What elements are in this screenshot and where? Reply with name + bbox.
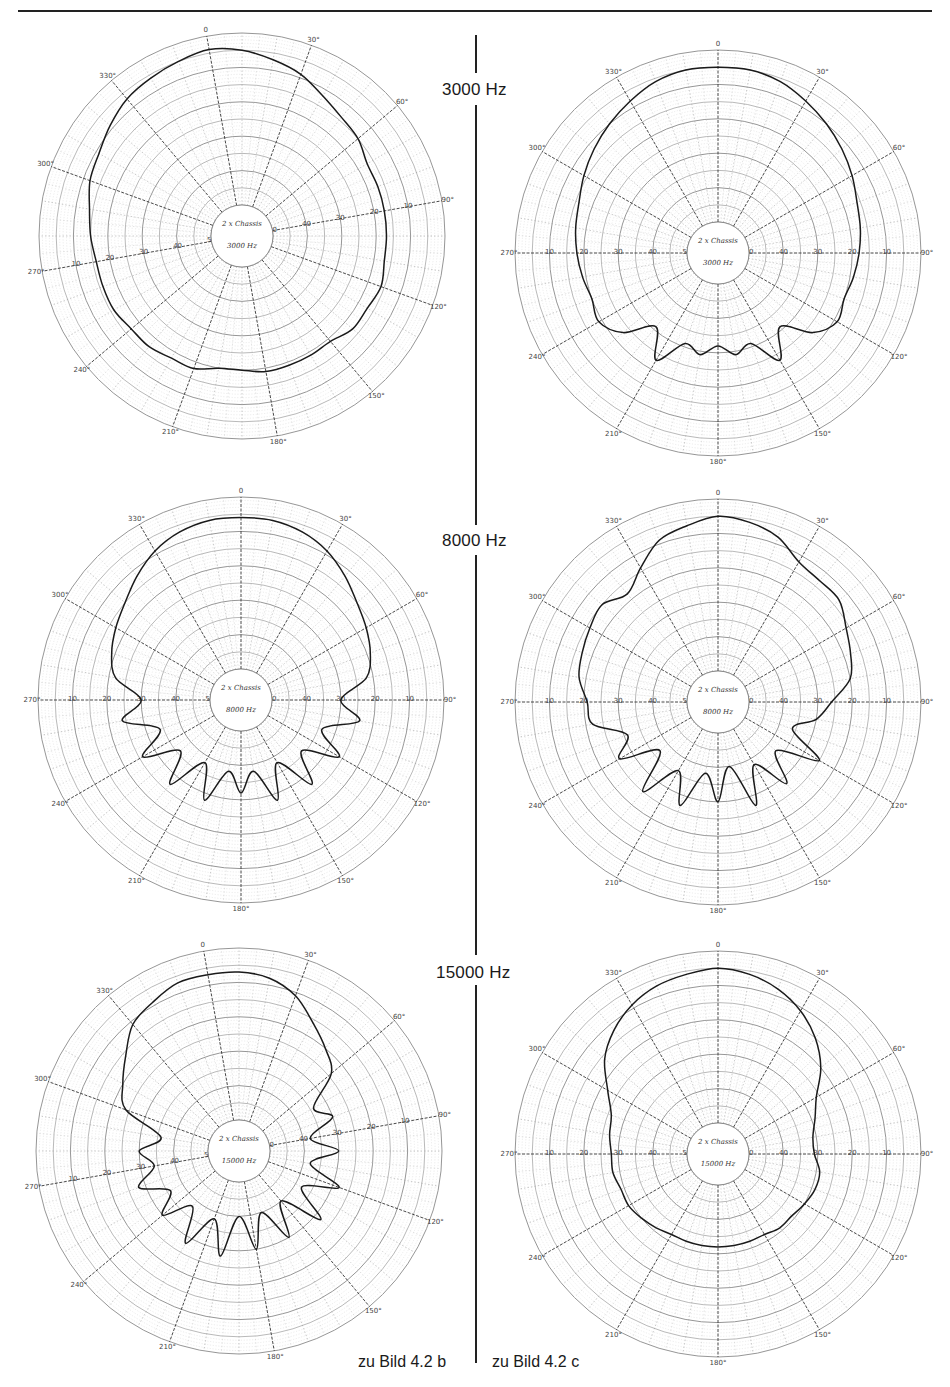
db-tick-label: 20: [370, 208, 379, 216]
angle-tick-label: 150°: [368, 392, 385, 400]
db-tick-label: 20: [848, 697, 857, 705]
angle-tick-label: 60°: [893, 593, 905, 601]
chart-hub: [687, 671, 749, 733]
angle-tick-label: 210°: [605, 879, 622, 887]
polar-chart-8000-c: 030°60°90°120°150°180°210°240°270°300°33…: [512, 496, 924, 908]
frequency-label-15000: 15000 Hz: [434, 961, 512, 985]
db-tick-label: 10: [405, 695, 414, 703]
angle-tick-label: 270°: [28, 268, 45, 276]
center-note: 2 x Chassis: [697, 237, 738, 245]
angle-tick-label: 150°: [814, 1331, 831, 1339]
chart-hub: [210, 669, 272, 731]
db-tick-label: 40: [299, 1135, 308, 1143]
angle-tick-label: 270°: [24, 696, 41, 704]
angle-tick-label: 300°: [34, 1075, 51, 1083]
db-tick-label: 30: [813, 697, 822, 705]
db-tick-label: 40: [779, 697, 788, 705]
db-tick-label: 40: [648, 1149, 657, 1157]
angle-tick-label: 0: [716, 489, 720, 497]
angle-tick-label: 330°: [605, 969, 622, 977]
db-tick-label: 10: [545, 697, 554, 705]
db-tick-label: 20: [102, 1169, 111, 1177]
angle-tick-label: 330°: [99, 72, 116, 80]
center-note: 8000 Hz: [703, 708, 733, 716]
db-tick-label: 40: [170, 1157, 179, 1165]
center-note: 8000 Hz: [226, 706, 256, 714]
polar-chart-15000-b: 030°60°90°120°150°180°210°240°270°300°33…: [33, 945, 445, 1357]
db-tick-label: 30: [813, 248, 822, 256]
angle-tick-label: 90°: [921, 698, 933, 706]
angle-tick-label: 30°: [339, 515, 351, 523]
angle-tick-label: 60°: [396, 98, 408, 106]
angle-tick-label: 150°: [814, 879, 831, 887]
center-note: 2 x Chassis: [697, 1138, 738, 1146]
db-tick-label: 40: [171, 695, 180, 703]
db-tick-label: 30: [139, 248, 148, 256]
db-tick-label: 20: [579, 1149, 588, 1157]
db-tick-label: 30: [136, 1163, 145, 1171]
angle-tick-label: 330°: [96, 987, 113, 995]
column-divider-2: [475, 555, 477, 955]
db-tick-label: 10: [882, 1149, 891, 1157]
angle-tick-label: 0: [716, 40, 720, 48]
db-tick-label: 30: [614, 248, 623, 256]
angle-tick-label: 90°: [444, 696, 456, 704]
center-note: 15000 Hz: [701, 1160, 736, 1168]
chart-hub: [687, 1123, 749, 1185]
angle-tick-label: 270°: [501, 698, 518, 706]
polar-response-curve: [122, 972, 339, 1256]
column-divider-1: [475, 105, 477, 525]
angle-tick-label: 330°: [128, 515, 145, 523]
angle-tick-label: 300°: [529, 593, 546, 601]
top-rule: [18, 10, 932, 12]
angle-tick-label: 150°: [337, 877, 354, 885]
db-tick-label: 10: [72, 260, 81, 268]
angle-tick-label: 120°: [430, 303, 447, 311]
column-divider-3: [475, 985, 477, 1363]
angle-tick-label: 180°: [270, 438, 287, 446]
polar-response-curve: [579, 516, 852, 805]
polar-chart-8000-b: 030°60°90°120°150°180°210°240°270°300°33…: [35, 494, 447, 906]
angle-tick-label: 60°: [893, 144, 905, 152]
db-tick-label: 10: [69, 1175, 78, 1183]
angle-tick-label: 210°: [159, 1343, 176, 1351]
angle-tick-label: 60°: [893, 1045, 905, 1053]
frequency-label-3000: 3000 Hz: [440, 78, 509, 102]
angle-tick-label: 180°: [710, 907, 727, 915]
angle-tick-label: 90°: [921, 1150, 933, 1158]
angle-tick-label: 0: [716, 941, 720, 949]
db-tick-label: 20: [371, 695, 380, 703]
angle-tick-label: 240°: [529, 1254, 546, 1262]
angle-tick-label: 0: [203, 26, 207, 34]
db-tick-label: 10: [404, 202, 413, 210]
angle-tick-label: 180°: [233, 905, 250, 913]
angle-tick-label: 120°: [427, 1218, 444, 1226]
db-tick-label: 20: [848, 1149, 857, 1157]
angle-tick-label: 210°: [605, 1331, 622, 1339]
center-note: 2 x Chassis: [697, 686, 738, 694]
db-tick-label: 40: [302, 220, 311, 228]
angle-tick-label: 240°: [529, 353, 546, 361]
angle-tick-label: 210°: [605, 430, 622, 438]
db-tick-label: 40: [173, 242, 182, 250]
center-note: 2 x Chassis: [218, 1135, 259, 1143]
db-tick-label: 10: [545, 1149, 554, 1157]
center-note: 2 x Chassis: [221, 220, 262, 228]
angle-tick-label: 330°: [605, 517, 622, 525]
angle-tick-label: 30°: [816, 68, 828, 76]
angle-tick-label: 60°: [393, 1013, 405, 1021]
db-tick-label: 30: [614, 1149, 623, 1157]
angle-tick-label: 30°: [307, 36, 319, 44]
db-tick-label: 10: [882, 248, 891, 256]
center-note: 3000 Hz: [227, 242, 257, 250]
chart-hub: [687, 222, 749, 284]
db-tick-label: 10: [401, 1117, 410, 1125]
angle-tick-label: 300°: [52, 591, 69, 599]
angle-tick-label: 270°: [501, 1150, 518, 1158]
chart-hub: [208, 1120, 270, 1182]
column-divider-top: [475, 35, 477, 73]
angle-tick-label: 0: [200, 941, 204, 949]
db-tick-label: 30: [614, 697, 623, 705]
center-note: 2 x Chassis: [220, 684, 261, 692]
db-tick-label: 10: [882, 697, 891, 705]
